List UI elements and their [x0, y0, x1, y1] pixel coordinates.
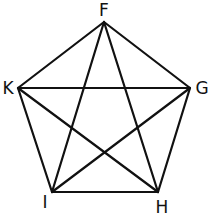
vertex-labels: F G H I K [2, 0, 208, 217]
edge-f-g [104, 22, 190, 88]
edges [18, 22, 190, 192]
pentagon-diagram: F G H I K [0, 0, 211, 218]
edge-f-i [52, 22, 104, 192]
edge-k-f [18, 22, 104, 88]
vertex-label-i: I [42, 192, 47, 212]
vertex-label-k: K [2, 78, 14, 98]
edge-f-h [104, 22, 158, 192]
edge-g-i [52, 88, 190, 192]
vertex-label-f: F [99, 0, 109, 20]
edge-i-k [18, 88, 52, 192]
vertex-label-g: G [195, 78, 208, 98]
edge-g-h [158, 88, 190, 192]
vertex-label-h: H [156, 197, 169, 217]
edge-h-k [18, 88, 158, 192]
